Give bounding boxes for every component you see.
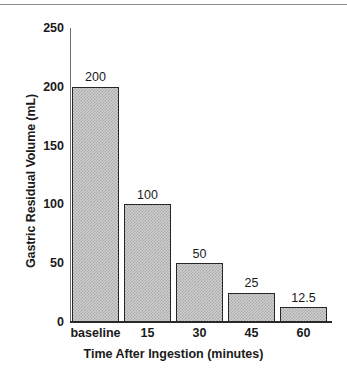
plot-area: 250 200 150 100 50 0 200 100 50 25 12.5 … bbox=[70, 28, 332, 322]
y-axis-line bbox=[70, 28, 71, 322]
x-tick-label-45: 45 bbox=[245, 327, 259, 340]
bar-45[interactable] bbox=[228, 293, 275, 322]
bar-chart-figure: Gastric Residual Volume (mL) 250 200 150… bbox=[0, 0, 347, 368]
bar-value-label: 25 bbox=[245, 277, 259, 290]
bar-15[interactable] bbox=[124, 204, 171, 322]
y-tick-label: 200 bbox=[24, 81, 64, 94]
y-tick-label: 250 bbox=[24, 22, 64, 35]
bar-30[interactable] bbox=[176, 263, 223, 322]
y-tick-label: 50 bbox=[24, 257, 64, 270]
y-tick-label: 150 bbox=[24, 139, 64, 152]
bar-60[interactable] bbox=[280, 307, 327, 322]
y-tick-label: 0 bbox=[24, 316, 64, 329]
bar-value-label: 200 bbox=[85, 71, 106, 84]
bar-value-label: 12.5 bbox=[291, 292, 315, 305]
x-tick-label-15: 15 bbox=[141, 327, 155, 340]
bar-value-label: 50 bbox=[193, 248, 207, 261]
x-axis-title: Time After Ingestion (minutes) bbox=[0, 347, 347, 361]
x-tick-label-30: 30 bbox=[193, 327, 207, 340]
y-tick-label: 100 bbox=[24, 198, 64, 211]
bar-baseline[interactable] bbox=[72, 87, 119, 322]
bar-value-label: 100 bbox=[137, 189, 158, 202]
x-tick-label-baseline: baseline bbox=[70, 327, 120, 340]
x-tick-label-60: 60 bbox=[297, 327, 311, 340]
